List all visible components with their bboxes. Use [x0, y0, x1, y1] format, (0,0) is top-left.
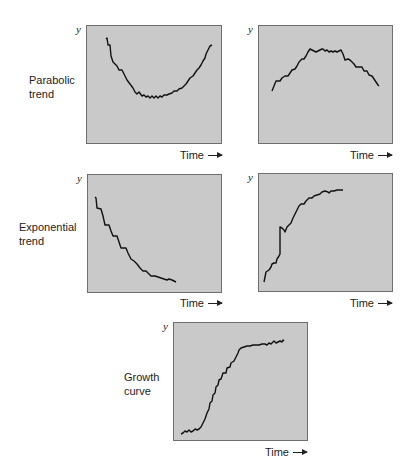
row-label-growth: Growth curve	[124, 370, 159, 398]
chart-panel-growth-curve	[173, 322, 308, 441]
arrow-right-icon	[293, 452, 307, 453]
row-label-exponential: Exponential trend	[19, 220, 77, 248]
y-axis-label: y	[248, 23, 253, 35]
label-line: Growth	[124, 370, 159, 384]
x-axis-text: Time	[350, 149, 374, 161]
arrow-right-icon	[378, 303, 392, 304]
chart-panel-parabolic-inverted	[258, 25, 393, 144]
x-axis-text: Time	[180, 297, 204, 309]
label-line: Exponential	[19, 220, 77, 234]
trend-line	[259, 174, 394, 293]
y-axis-label: y	[77, 172, 82, 184]
trend-line	[174, 323, 309, 442]
arrow-right-icon	[378, 155, 392, 156]
x-axis-label: Time	[265, 446, 307, 458]
arrow-right-icon	[208, 303, 222, 304]
y-axis-label: y	[76, 23, 81, 35]
chart-panel-exponential-decay	[87, 174, 222, 293]
x-axis-text: Time	[265, 446, 289, 458]
x-axis-label: Time	[180, 297, 222, 309]
label-line: Parabolic	[29, 73, 75, 87]
arrow-right-icon	[208, 155, 222, 156]
x-axis-text: Time	[350, 297, 374, 309]
trend-line	[259, 26, 394, 145]
label-line: trend	[29, 87, 75, 101]
x-axis-label: Time	[180, 149, 222, 161]
trend-line	[88, 175, 223, 294]
label-line: trend	[19, 234, 77, 248]
trend-line	[87, 26, 223, 145]
label-line: curve	[124, 384, 159, 398]
chart-panel-parabolic-u	[86, 25, 222, 144]
y-axis-label: y	[248, 171, 253, 183]
y-axis-label: y	[163, 320, 168, 332]
x-axis-label: Time	[350, 149, 392, 161]
x-axis-label: Time	[350, 297, 392, 309]
x-axis-text: Time	[180, 149, 204, 161]
chart-panel-exponential-growth	[258, 173, 393, 292]
row-label-parabolic: Parabolic trend	[29, 73, 75, 101]
